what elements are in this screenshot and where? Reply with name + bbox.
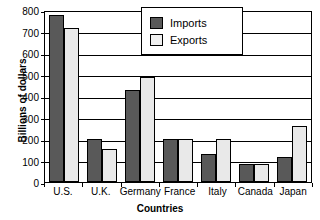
bar-group [45,12,83,182]
x-axis-tick-label: Canada [236,184,274,202]
y-axis-tick-label: 300 [0,115,39,125]
y-axis-tick-label: 500 [0,72,39,82]
bar-imports-us [49,15,64,182]
y-axis-tick-label: 600 [0,50,39,60]
legend-item-exports[interactable]: Exports [150,31,234,48]
bar-exports-italy [216,139,231,182]
bar-exports-japan [292,126,307,182]
legend-label: Exports [170,34,207,46]
y-axis-tick-label: 400 [0,93,39,103]
x-axis-tick-label: France [161,184,199,202]
legend-item-imports[interactable]: Imports [150,14,234,31]
x-axis-tick-label: Japan [274,184,312,202]
y-axis-tick-label: 800 [0,7,39,17]
x-axis-title: Countries [0,203,320,214]
x-axis-tick-label: U.K. [82,184,120,202]
bar-imports-italy [201,154,216,182]
legend-label: Imports [170,17,207,29]
bar-group [273,12,311,182]
y-axis-tick-label: 200 [0,136,39,146]
y-axis-tick-label: 100 [0,158,39,168]
legend-swatch-imports-icon [150,17,163,29]
bar-exports-germany [140,77,155,182]
clipped-chart-title [44,0,312,1]
y-axis-tick-label: 700 [0,29,39,39]
y-axis-tick-label: 0 [0,179,39,189]
bar-imports-japan [277,157,292,182]
bar-exports-france [178,139,193,182]
bar-imports-france [163,139,178,182]
bar-imports-uk [87,139,102,182]
bar-exports-uk [102,149,117,182]
x-axis-tick-labels: U.S.U.K.GermanyFranceItalyCanadaJapan [44,184,312,202]
x-axis-tick-mark [312,183,313,187]
bar-exports-canada [254,164,269,182]
x-axis-tick-label: Germany [120,184,161,202]
bar-chart-figure: Billions of dollars 01002003004005006007… [0,0,320,220]
chart-legend: ImportsExports [141,7,243,55]
bar-imports-germany [125,90,140,182]
x-axis-tick-label: Italy [199,184,237,202]
bar-imports-canada [239,164,254,182]
bar-exports-us [64,28,79,182]
bar-group [83,12,121,182]
x-axis-tick-label: U.S. [44,184,82,202]
legend-swatch-exports-icon [150,34,163,46]
